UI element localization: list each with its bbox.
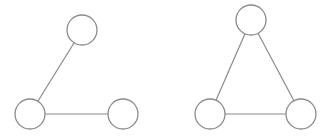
path-graph-edge-a-b: [38, 43, 74, 101]
triangle-graph-node-f: [286, 99, 316, 129]
path-graph-node-b: [15, 99, 45, 129]
edges-layer: [38, 33, 294, 114]
triangle-graph-edge-d-e: [216, 34, 245, 101]
triangle-graph-node-d: [236, 5, 266, 35]
triangle-graph-node-e: [195, 99, 225, 129]
graph-diagram: [0, 0, 334, 138]
triangle-graph-edge-d-f: [258, 33, 294, 101]
path-graph-node-c: [108, 99, 138, 129]
nodes-layer: [15, 5, 316, 129]
path-graph-node-a: [67, 15, 97, 45]
